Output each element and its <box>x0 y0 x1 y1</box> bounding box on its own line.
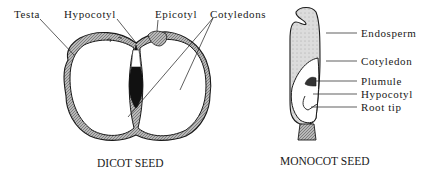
label-cotyledon: Cotyledon <box>361 55 412 67</box>
caption-dicot: DICOT SEED <box>97 157 164 169</box>
right-cotyledon <box>138 39 206 135</box>
seed-diagram: Testa Hypocotyl Epicotyl Cotyledons DICO… <box>0 0 423 177</box>
label-epicotyl: Epicotyl <box>155 8 197 20</box>
seed-base <box>298 124 316 140</box>
monocot-seed: Endosperm Cotyledon Plumule Hypocotyl Ro… <box>280 8 417 168</box>
testa-leader <box>40 19 74 55</box>
label-hypocotyl: Hypocotyl <box>64 8 116 20</box>
label-hypocotyl-monocot: Hypocotyl <box>361 88 413 100</box>
epicotyl-leader <box>157 20 158 31</box>
label-cotyledons: Cotyledons <box>210 8 266 20</box>
caption-monocot: MONOCOT SEED <box>280 155 370 167</box>
label-endosperm: Endosperm <box>361 27 417 39</box>
label-plumule: Plumule <box>361 75 402 87</box>
label-root-tip: Root tip <box>361 101 402 113</box>
diagram-canvas: Testa Hypocotyl Epicotyl Cotyledons DICO… <box>0 0 423 177</box>
dicot-seed: Testa Hypocotyl Epicotyl Cotyledons DICO… <box>14 8 266 169</box>
label-testa: Testa <box>14 8 40 20</box>
